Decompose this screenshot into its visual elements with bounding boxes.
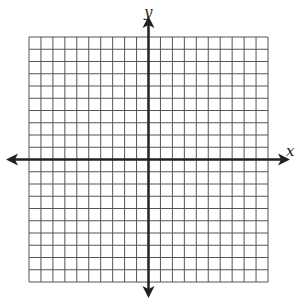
coordinate-plane (0, 0, 305, 301)
x-axis-label: x (286, 142, 294, 160)
y-axis-label: y (144, 3, 152, 21)
